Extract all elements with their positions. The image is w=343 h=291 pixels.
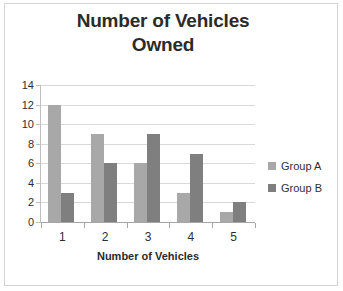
chart-legend: Group AGroup B xyxy=(268,160,338,204)
y-axis-tick-label: 10 xyxy=(4,119,34,130)
chart-container: Number of Vehicles Owned 14121086420 123… xyxy=(0,0,343,291)
x-axis-tick-label: 3 xyxy=(128,230,168,244)
bar xyxy=(177,193,190,222)
legend-item[interactable]: Group B xyxy=(268,182,338,194)
y-axis-tick-label: 4 xyxy=(4,178,34,189)
gridline xyxy=(41,124,255,125)
y-axis-tick-mark xyxy=(36,183,41,184)
bar xyxy=(220,212,233,222)
y-axis-tick-mark xyxy=(36,202,41,203)
gridline xyxy=(41,105,255,106)
y-axis-tick-label: 0 xyxy=(4,217,34,228)
x-axis-tick-mark xyxy=(212,223,213,228)
x-axis-title: Number of Vehicles xyxy=(41,250,255,262)
chart-title: Number of Vehicles Owned xyxy=(18,9,308,57)
y-axis-tick-label: 14 xyxy=(4,80,34,91)
bar xyxy=(190,154,203,223)
x-axis-tick-label: 4 xyxy=(171,230,211,244)
y-axis-tick-mark xyxy=(36,85,41,86)
y-axis-tick-mark xyxy=(36,144,41,145)
y-axis-tick-label: 6 xyxy=(4,158,34,169)
chart-title-line-2: Owned xyxy=(18,33,308,57)
plot-area xyxy=(41,85,255,222)
bar xyxy=(61,193,74,222)
bar xyxy=(104,163,117,222)
legend-item-label: Group A xyxy=(281,160,321,172)
x-axis-tick-mark xyxy=(41,223,42,228)
y-axis-tick-label: 2 xyxy=(4,197,34,208)
x-axis-tick-mark xyxy=(84,223,85,228)
chart-title-line-1: Number of Vehicles xyxy=(18,9,308,33)
bar xyxy=(233,202,246,222)
legend-item-label: Group B xyxy=(281,182,322,194)
bar xyxy=(91,134,104,222)
bar xyxy=(147,134,160,222)
x-axis-tick-mark xyxy=(169,223,170,228)
gridline xyxy=(41,85,255,86)
y-axis-tick-mark xyxy=(36,163,41,164)
bar xyxy=(134,163,147,222)
y-axis-tick-label: 12 xyxy=(4,100,34,111)
y-axis-tick-labels: 14121086420 xyxy=(2,0,34,291)
x-axis-line xyxy=(41,222,255,223)
x-axis-tick-label: 5 xyxy=(214,230,254,244)
x-axis-tick-label: 2 xyxy=(85,230,125,244)
x-axis-tick-mark xyxy=(127,223,128,228)
y-axis-tick-mark xyxy=(36,105,41,106)
x-axis-tick-mark xyxy=(255,223,256,228)
y-axis-tick-label: 8 xyxy=(4,139,34,150)
legend-item[interactable]: Group A xyxy=(268,160,338,172)
y-axis-tick-mark xyxy=(36,124,41,125)
legend-swatch-icon xyxy=(268,162,276,170)
x-axis-tick-label: 1 xyxy=(42,230,82,244)
legend-swatch-icon xyxy=(268,184,276,192)
bar xyxy=(48,105,61,222)
